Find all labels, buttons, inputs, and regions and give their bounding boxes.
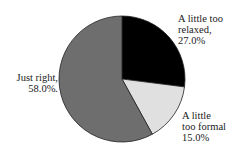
label-just-right-line1: Just right, bbox=[10, 72, 58, 83]
label-just-right-value: 58.0%. bbox=[10, 83, 58, 94]
label-too-formal: A little too formal 15.0% bbox=[182, 110, 226, 143]
label-too-relaxed: A little too relaxed, 27.0% bbox=[178, 13, 223, 46]
label-too-formal-line2: too formal bbox=[182, 121, 226, 132]
label-too-relaxed-line2: relaxed, bbox=[178, 24, 223, 35]
label-too-formal-line1: A little bbox=[182, 110, 226, 121]
label-just-right: Just right, 58.0%. bbox=[10, 72, 58, 94]
pie-slice-a-little-too-relaxed bbox=[122, 16, 185, 87]
label-too-relaxed-value: 27.0% bbox=[178, 35, 223, 46]
label-too-formal-value: 15.0% bbox=[182, 132, 226, 143]
label-too-relaxed-line1: A little too bbox=[178, 13, 223, 24]
